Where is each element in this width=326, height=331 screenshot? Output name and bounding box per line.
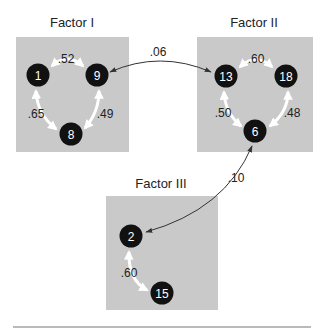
svg-text:8: 8 xyxy=(68,128,75,142)
node-18: 18 xyxy=(275,65,298,88)
svg-text:13: 13 xyxy=(219,70,233,84)
factor-diagram: Factor I Factor II Factor III .52 .49 .6… xyxy=(0,0,326,331)
svg-text:15: 15 xyxy=(155,287,169,301)
svg-text:6: 6 xyxy=(252,125,259,139)
svg-text:9: 9 xyxy=(94,69,101,83)
edge-9-8-label: .49 xyxy=(97,107,114,121)
edge-18-6-label: .48 xyxy=(284,106,301,120)
edge-1-9-label: .52 xyxy=(58,52,75,66)
edge-13-6-label: .50 xyxy=(215,106,232,120)
node-6: 6 xyxy=(244,120,267,143)
edge-13-18-label: .60 xyxy=(248,52,265,66)
factor-3-title: Factor III xyxy=(135,176,186,191)
node-2: 2 xyxy=(120,225,143,248)
node-13: 13 xyxy=(215,65,238,88)
link-9-13-label: .06 xyxy=(150,45,167,59)
svg-text:18: 18 xyxy=(279,70,293,84)
link-6-2-label: .10 xyxy=(228,171,245,185)
edge-1-8-label: .65 xyxy=(28,107,45,121)
factor-2-title: Factor II xyxy=(230,15,278,30)
node-9: 9 xyxy=(86,64,109,87)
node-8: 8 xyxy=(60,123,83,146)
node-1: 1 xyxy=(27,64,50,87)
svg-text:2: 2 xyxy=(128,230,135,244)
svg-text:1: 1 xyxy=(35,69,42,83)
node-15: 15 xyxy=(151,282,174,305)
factor-1-title: Factor I xyxy=(50,15,94,30)
edge-2-15-label: .60 xyxy=(121,266,138,280)
